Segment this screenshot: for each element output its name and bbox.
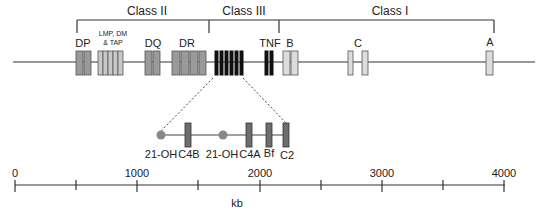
- scale-tick-1000: 1000: [125, 167, 149, 179]
- class-iii-label: Class III: [222, 4, 265, 18]
- class-brackets: [77, 20, 494, 33]
- dq-label: DQ: [145, 37, 162, 49]
- detail-label-21oh-2: 21-OH: [206, 148, 238, 160]
- mhc-diagram: Class II Class III Class I DP LMP, DM & …: [0, 0, 553, 213]
- expansion-line-right: [243, 78, 286, 123]
- scale-unit: kb: [231, 197, 243, 209]
- 21-oh-a-marker: [219, 131, 228, 140]
- detail-label-21oh-1: 21-OH: [145, 148, 177, 160]
- c2-gene: [283, 123, 289, 147]
- scale-tick-4000: 4000: [492, 167, 516, 179]
- c-label: C: [354, 37, 362, 49]
- class-ii-label: Class II: [127, 4, 167, 18]
- lmp-label-line2: & TAP: [103, 39, 123, 46]
- class-ii-genes: [76, 51, 206, 75]
- class-i-genes: [283, 51, 493, 75]
- detail-label-bf: Bf: [264, 147, 275, 159]
- class-iii-genes: [215, 51, 273, 75]
- scale-tick-2000: 2000: [248, 167, 272, 179]
- bf-gene: [266, 123, 272, 147]
- detail-label-c4a: C4A: [239, 148, 261, 160]
- c4b-gene: [185, 123, 191, 147]
- detail-label-c4b: C4B: [178, 148, 199, 160]
- tnf-label: TNF: [259, 37, 281, 49]
- b-label: B: [286, 37, 293, 49]
- dp-label: DP: [75, 37, 90, 49]
- 21-oh-b-marker: [157, 131, 166, 140]
- a-label: A: [486, 36, 494, 48]
- detail-label-c2: C2: [280, 149, 294, 161]
- class-i-label: Class I: [372, 4, 409, 18]
- lmp-label-line1: LMP, DM: [99, 30, 127, 37]
- dr-label: DR: [179, 37, 195, 49]
- scale-tick-0: 0: [12, 167, 18, 179]
- scale-tick-3000: 3000: [370, 167, 394, 179]
- scale-bar: [15, 180, 505, 192]
- c4a-gene: [246, 123, 252, 147]
